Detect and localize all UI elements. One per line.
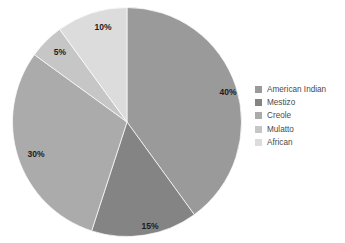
legend-item-mulatto[interactable]: Mulatto — [255, 123, 345, 136]
legend-swatch-icon — [255, 126, 262, 133]
legend-swatch-icon — [255, 139, 262, 146]
pie-slice-group — [12, 8, 241, 237]
legend-item-label: Mestizo — [267, 96, 295, 109]
chart-legend: American Indian Mestizo Creole Mulatto A… — [255, 83, 345, 149]
slice-label-mulatto: 5% — [54, 47, 67, 57]
legend-item-mestizo[interactable]: Mestizo — [255, 96, 345, 109]
legend-item-label: Mulatto — [267, 123, 294, 136]
legend-item-american-indian[interactable]: American Indian — [255, 83, 345, 96]
slice-label-mestizo: 15% — [141, 221, 158, 231]
legend-item-label: African — [267, 136, 292, 149]
pie-chart: 40% 15% 30% 5% 10% American Indian Mesti… — [0, 0, 345, 243]
legend-item-label: American Indian — [267, 83, 326, 96]
slice-label-american-indian: 40% — [219, 87, 236, 97]
legend-swatch-icon — [255, 99, 262, 106]
legend-swatch-icon — [255, 86, 262, 93]
legend-swatch-icon — [255, 112, 262, 119]
legend-item-label: Creole — [267, 109, 291, 122]
legend-item-creole[interactable]: Creole — [255, 109, 345, 122]
slice-label-african: 10% — [94, 22, 111, 32]
legend-item-african[interactable]: African — [255, 136, 345, 149]
slice-label-creole: 30% — [27, 149, 44, 159]
